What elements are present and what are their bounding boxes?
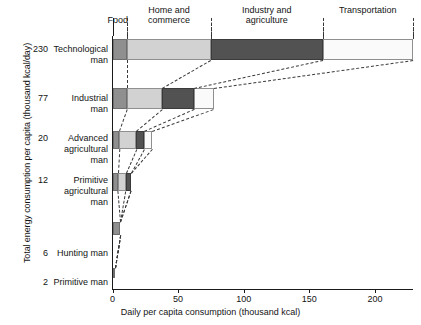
x-tick (178, 289, 179, 293)
connector-line (323, 18, 324, 39)
x-tick (309, 289, 310, 293)
y-axis-line (112, 36, 113, 290)
row-name: Advanced agricultural man (42, 133, 108, 166)
row-name: Primitive man (42, 277, 108, 288)
bar-segment (113, 88, 127, 109)
bar-segment (118, 173, 126, 191)
x-tick-label: 50 (158, 294, 198, 304)
x-tick (113, 289, 114, 293)
bar-segment (136, 131, 144, 149)
bar-segment (113, 39, 127, 60)
connector-line (144, 109, 194, 132)
row-name: Primitive agricultural man (42, 175, 108, 208)
connector-line (214, 60, 414, 89)
connector-line (119, 109, 128, 131)
bar-segment (162, 88, 194, 109)
category-header: Transportation (323, 5, 413, 15)
row-name: Technological man (42, 44, 108, 66)
bar-segment (127, 39, 211, 60)
bar-segment (126, 173, 131, 191)
bar-segment (194, 88, 214, 109)
bar-segment (144, 131, 152, 149)
bar-segment (119, 131, 136, 149)
food-start-mark (113, 18, 114, 36)
connector-line (115, 235, 121, 268)
energy-consumption-chart: Total energy consumption per capita (tho… (0, 0, 421, 325)
connector-line (118, 149, 120, 173)
category-header: Industry and agriculture (222, 5, 312, 25)
connector-line (162, 60, 211, 89)
x-axis-title: Daily per capita consumption (thousand k… (0, 307, 421, 317)
bar-segment (323, 39, 414, 60)
bar-segment (211, 39, 323, 60)
x-tick (244, 289, 245, 293)
connector-line (127, 18, 128, 39)
row-name: Hunting man (42, 248, 108, 259)
x-tick-label: 100 (224, 294, 264, 304)
x-tick-label: 0 (93, 294, 133, 304)
x-axis-line (112, 289, 413, 290)
connector-line (413, 18, 414, 39)
x-tick-label: 150 (289, 294, 329, 304)
connector-line (127, 60, 128, 88)
row-name: Industrial man (42, 93, 108, 115)
connector-line (211, 18, 212, 39)
x-tick (375, 289, 376, 293)
bar-segment (127, 88, 162, 109)
x-tick-label: 200 (355, 294, 395, 304)
bar-segment (113, 222, 121, 235)
category-header: Home and commerce (124, 5, 214, 25)
